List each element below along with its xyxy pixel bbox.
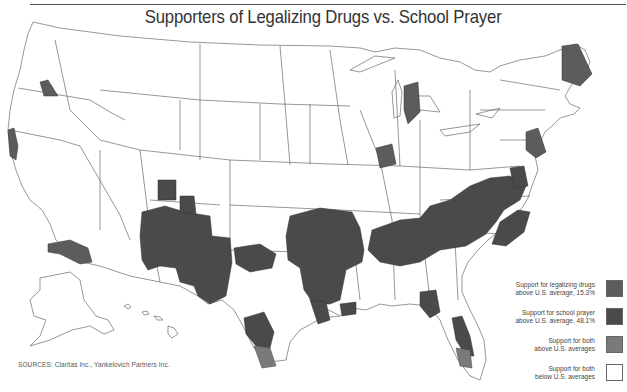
region-sf-bay bbox=[8, 128, 18, 160]
region-la-sd bbox=[48, 240, 92, 264]
region-south-tx-both bbox=[254, 346, 276, 368]
legend-label: Support for bothbelow U.S. averages bbox=[485, 365, 595, 381]
sources-note: SOURCES: Claritas Inc., Yankelovich Part… bbox=[18, 361, 170, 368]
legend-swatch-both-above bbox=[606, 336, 623, 353]
region-nyc bbox=[526, 128, 546, 158]
region-michigan bbox=[404, 82, 420, 124]
legend-item-drugs: Support for legalizing drugsabove U.S. a… bbox=[520, 278, 627, 306]
region-ok-mo-ar bbox=[286, 208, 364, 304]
alaska-outline bbox=[30, 272, 114, 346]
legend-label: Support for school prayerabove U.S. aver… bbox=[485, 309, 595, 325]
legend-item-prayer: Support for school prayerabove U.S. aver… bbox=[520, 306, 627, 334]
legend-item-both-above: Support for bothabove U.S. averages bbox=[520, 334, 627, 362]
legend-swatch-drugs bbox=[606, 280, 623, 297]
region-oregon bbox=[40, 80, 58, 96]
legend-label: Support for legalizing drugsabove U.S. a… bbox=[485, 281, 595, 297]
region-maine bbox=[562, 44, 592, 86]
legend-label: Support for bothabove U.S. averages bbox=[485, 337, 595, 353]
region-chicago bbox=[376, 144, 396, 168]
legend-swatch-both-below bbox=[606, 364, 623, 381]
region-south-tx bbox=[244, 312, 274, 348]
legend-swatch-prayer bbox=[606, 308, 623, 325]
legend: Support for legalizing drugsabove U.S. a… bbox=[520, 278, 627, 390]
hawaii-islands bbox=[124, 304, 178, 338]
legend-item-both-below: Support for bothbelow U.S. averages bbox=[520, 362, 627, 390]
region-south-florida-both bbox=[456, 348, 472, 368]
